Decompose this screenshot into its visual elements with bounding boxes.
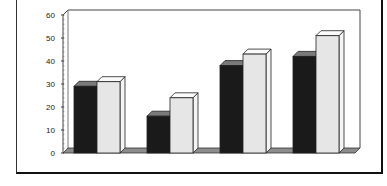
y-tick-label: 0 (51, 149, 56, 158)
y-tick-label: 30 (46, 80, 55, 89)
y-tick-label: 60 (46, 11, 55, 20)
y-tick-label: 20 (46, 103, 55, 112)
bar (97, 77, 125, 153)
bar-series (74, 31, 344, 153)
bar (170, 93, 198, 153)
y-tick-label: 40 (46, 57, 55, 66)
y-tick-label: 10 (46, 126, 55, 135)
bar (243, 49, 271, 153)
bar (316, 31, 344, 153)
bar-chart: 0102030405060 (0, 0, 387, 186)
y-axis: 0102030405060 (46, 11, 64, 158)
y-tick-label: 50 (46, 34, 55, 43)
